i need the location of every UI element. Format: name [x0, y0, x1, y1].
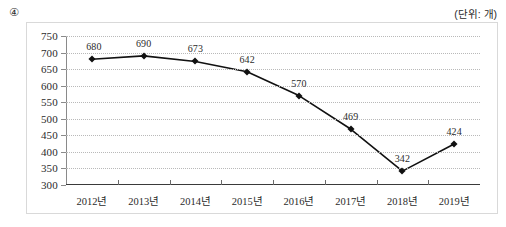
y-axis-tick: [61, 119, 66, 120]
y-axis-tick-label: 550: [41, 96, 58, 108]
line-series: [66, 36, 480, 185]
y-axis-tick: [61, 86, 66, 87]
gridline: [66, 102, 480, 103]
y-axis-tick-label: 700: [41, 47, 58, 59]
data-point-label: 642: [239, 54, 254, 65]
data-point-label: 570: [291, 78, 306, 89]
plot-area: 3003504004505005506006507007502012년2013년…: [66, 36, 480, 185]
y-axis-tick: [61, 69, 66, 70]
y-axis-tick: [61, 102, 66, 103]
data-point-label: 342: [395, 153, 410, 164]
y-axis-tick: [61, 36, 66, 37]
x-axis-tick-label: 2015년: [232, 193, 263, 208]
y-axis-tick: [61, 185, 66, 186]
data-point-label: 424: [446, 126, 461, 137]
gridline: [66, 36, 480, 37]
y-axis-tick-label: 350: [41, 162, 58, 174]
item-number-label: ④: [9, 6, 19, 19]
y-axis-tick-label: 400: [41, 146, 58, 158]
gridline: [66, 135, 480, 136]
x-axis-tick-label: 2018년: [387, 193, 418, 208]
data-point-label: 469: [343, 111, 358, 122]
y-axis-tick: [61, 152, 66, 153]
unit-label: (단위: 개): [454, 6, 497, 21]
gridline: [66, 53, 480, 54]
data-point-label: 673: [188, 43, 203, 54]
y-axis-tick-label: 750: [41, 30, 58, 42]
x-axis-tick-label: 2013년: [128, 193, 159, 208]
y-axis-tick-label: 300: [41, 179, 58, 191]
y-axis-tick-label: 500: [41, 113, 58, 125]
x-axis-tick-label: 2017년: [335, 193, 366, 208]
gridline: [66, 168, 480, 169]
data-point-label: 680: [86, 41, 101, 52]
x-axis-tick-label: 2014년: [180, 193, 211, 208]
chart-figure: ④ (단위: 개) 300350400450500550600650700750…: [0, 0, 506, 227]
y-axis-tick-label: 600: [41, 80, 58, 92]
y-axis-tick-label: 450: [41, 129, 58, 141]
y-axis-tick: [61, 53, 66, 54]
x-axis-tick-label: 2012년: [76, 193, 107, 208]
x-axis-tick-label: 2016년: [283, 193, 314, 208]
y-axis-tick: [61, 135, 66, 136]
x-axis-tick: [377, 180, 378, 185]
x-axis-tick-label: 2019년: [439, 193, 470, 208]
x-axis-tick: [221, 180, 222, 185]
data-point-label: 690: [136, 38, 151, 49]
x-axis-tick: [118, 180, 119, 185]
x-axis-tick: [325, 180, 326, 185]
x-axis-tick: [273, 180, 274, 185]
gridline: [66, 152, 480, 153]
x-axis-tick: [428, 180, 429, 185]
gridline: [66, 119, 480, 120]
gridline: [66, 86, 480, 87]
y-axis-tick: [61, 168, 66, 169]
x-axis-tick: [170, 180, 171, 185]
gridline: [66, 69, 480, 70]
y-axis-tick-label: 650: [41, 63, 58, 75]
